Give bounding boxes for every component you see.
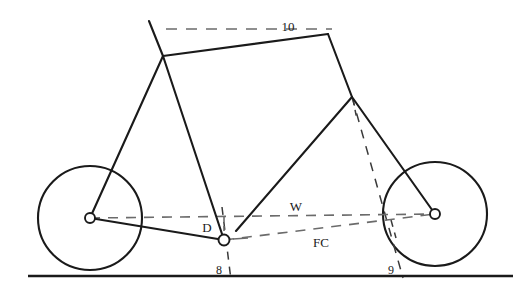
rear-hub [85, 213, 95, 223]
seat-tube-upper [328, 34, 352, 97]
label-front-center: FC [313, 235, 329, 250]
bottom-bracket [219, 235, 230, 246]
diagram-canvas: 10 W FC D 8 9 [0, 0, 524, 291]
label-top-tube-reference: 10 [282, 19, 295, 34]
front-angle-tick [391, 220, 396, 238]
front-hub [430, 209, 440, 219]
seat-tube-angle-construction-line [352, 97, 403, 278]
label-bottom-bracket-drop: D [202, 220, 211, 235]
label-seat-tube-angle: 9 [388, 263, 394, 277]
bottom-bracket-dash-stub [233, 238, 248, 239]
steerer-tube [149, 21, 163, 56]
down-tube [163, 56, 224, 240]
front-center-dimension-line [224, 214, 435, 240]
fork-blade [90, 56, 163, 218]
bicycle-geometry-diagram: 10 W FC D 8 9 [0, 0, 524, 291]
label-head-tube-angle: 8 [216, 263, 222, 277]
label-wheelbase: W [290, 199, 303, 214]
seat-stay [352, 97, 435, 214]
top-tube [163, 34, 328, 56]
